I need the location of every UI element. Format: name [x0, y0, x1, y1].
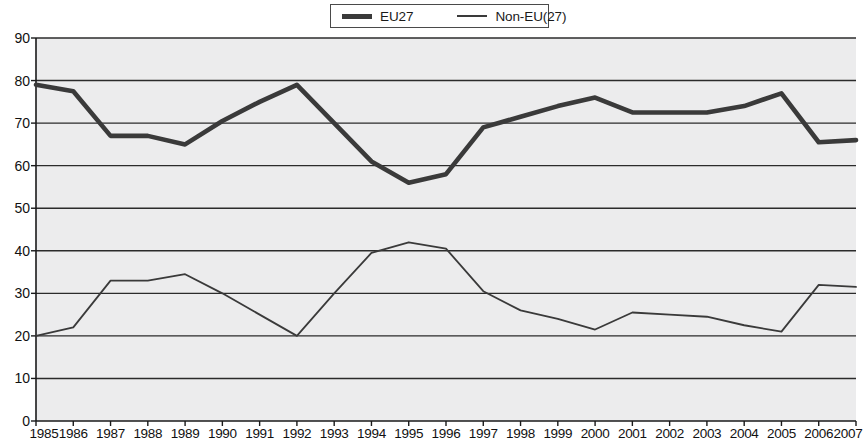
x-tick-label: 1988: [133, 426, 162, 441]
x-tick-label: 1987: [96, 426, 125, 441]
x-tick-label: 1998: [506, 426, 535, 441]
x-tick-label: 2004: [730, 426, 759, 441]
x-tick-label: 1999: [543, 426, 572, 441]
x-tick-label: 2005: [767, 426, 796, 441]
x-tick-label: 2006: [804, 426, 833, 441]
x-tick-label: 1990: [208, 426, 237, 441]
x-tick-label: 2007: [834, 426, 863, 441]
x-tick-label: 1997: [469, 426, 498, 441]
plot-area: [0, 0, 867, 446]
x-tick-label: 2001: [618, 426, 647, 441]
x-tick-label: 1992: [282, 426, 311, 441]
x-tick-label: 1991: [245, 426, 274, 441]
x-tick-label: 2003: [692, 426, 721, 441]
x-tick-label: 1994: [357, 426, 386, 441]
x-tick-label: 2000: [581, 426, 610, 441]
x-axis: 1985198619871988198919901991199219931994…: [0, 426, 867, 446]
x-tick-label: 1995: [394, 426, 423, 441]
x-tick-label: 1985: [30, 426, 59, 441]
line-chart: EU27 Non-EU(27) 0102030405060708090 1985…: [0, 0, 867, 446]
x-tick-label: 1993: [320, 426, 349, 441]
x-tick-label: 1986: [59, 426, 88, 441]
plot-background: [36, 38, 856, 421]
x-tick-label: 2002: [655, 426, 684, 441]
x-tick-label: 1996: [432, 426, 461, 441]
x-tick-label: 1989: [171, 426, 200, 441]
